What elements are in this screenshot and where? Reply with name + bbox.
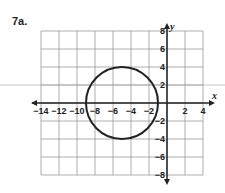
y-tick-label: −4 <box>155 134 165 144</box>
x-tick-label: −2 <box>144 106 154 116</box>
y-tick-label: −2 <box>155 116 165 126</box>
x-axis-label: x <box>211 90 217 101</box>
y-tick-label: 2 <box>160 80 165 90</box>
x-tick-label: −6 <box>108 106 118 116</box>
x-tick-label: 4 <box>200 106 205 116</box>
y-tick-label: 8 <box>160 26 165 36</box>
x-tick-label: −4 <box>126 106 136 116</box>
y-tick-label: −6 <box>155 152 165 162</box>
y-axis-label: y <box>169 21 175 32</box>
x-tick-label: −14 <box>33 106 48 116</box>
x-tick-label: 2 <box>182 106 187 116</box>
y-tick-label: 4 <box>160 62 165 72</box>
y-tick-label: 6 <box>160 44 165 54</box>
y-tick-label: −8 <box>155 170 165 180</box>
x-tick-label: −12 <box>51 106 66 116</box>
x-tick-label: −8 <box>90 106 100 116</box>
coordinate-plane: xy−14−12−10−8−6−4−2248642−2−4−6−8 <box>0 0 225 193</box>
x-tick-label: −10 <box>69 106 84 116</box>
